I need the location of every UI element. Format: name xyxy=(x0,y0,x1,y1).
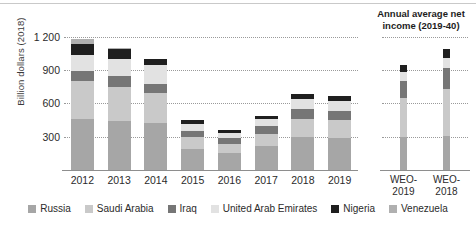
bar-segment-nigeria[interactable] xyxy=(400,65,407,72)
bar-segment-united-arab-emirates[interactable] xyxy=(108,59,131,76)
bar-segment-united-arab-emirates[interactable] xyxy=(400,72,407,81)
bar-column[interactable] xyxy=(442,30,452,170)
y-axis-tick: 1 200 xyxy=(20,31,60,42)
y-axis-tick-labels: 1 200900600300 xyxy=(20,0,60,231)
bar-segment-iraq[interactable] xyxy=(144,84,167,93)
bar-segment-iraq[interactable] xyxy=(255,126,278,134)
bar-segment-saudi-arabia[interactable] xyxy=(181,137,204,149)
legend-item[interactable]: United Arab Emirates xyxy=(211,203,318,214)
legend-label: Iraq xyxy=(180,203,197,214)
right-panel-title: Annual average net income (2019-40) xyxy=(368,8,474,32)
bar-segment-saudi-arabia[interactable] xyxy=(71,81,94,119)
stacked-bar[interactable] xyxy=(443,49,450,170)
y-axis-tick: 600 xyxy=(20,98,60,109)
bar-segment-russia[interactable] xyxy=(108,121,131,170)
bar-segment-united-arab-emirates[interactable] xyxy=(144,65,167,84)
bar-segment-nigeria[interactable] xyxy=(108,49,131,58)
bar-segment-russia[interactable] xyxy=(291,137,314,170)
stacked-bar[interactable] xyxy=(218,130,241,170)
bar-segment-iraq[interactable] xyxy=(328,111,351,120)
bar-segment-saudi-arabia[interactable] xyxy=(291,119,314,137)
stacked-bar[interactable] xyxy=(181,120,204,170)
bar-segment-saudi-arabia[interactable] xyxy=(144,93,167,122)
bar-segment-nigeria[interactable] xyxy=(71,44,94,55)
bar-segment-iraq[interactable] xyxy=(181,131,204,138)
bar-segment-saudi-arabia[interactable] xyxy=(255,134,278,146)
right-plot-area xyxy=(382,30,468,170)
bar-segment-saudi-arabia[interactable] xyxy=(218,144,241,152)
right-x-axis-label-line1: WEO- xyxy=(428,174,466,186)
main-plot-area xyxy=(64,30,358,170)
bar-segment-saudi-arabia[interactable] xyxy=(328,120,351,138)
legend-label: Saudi Arabia xyxy=(97,203,154,214)
legend-swatch-icon xyxy=(28,205,36,213)
stacked-bar[interactable] xyxy=(400,65,407,170)
bar-segment-united-arab-emirates[interactable] xyxy=(181,124,204,131)
legend-swatch-icon xyxy=(389,205,397,213)
stacked-bar[interactable] xyxy=(291,94,314,170)
stacked-bar[interactable] xyxy=(71,39,94,170)
bar-column[interactable] xyxy=(213,30,246,170)
bar-segment-iraq[interactable] xyxy=(291,109,314,119)
bar-segment-saudi-arabia[interactable] xyxy=(400,98,407,136)
legend-swatch-icon xyxy=(211,205,219,213)
bar-segment-united-arab-emirates[interactable] xyxy=(71,55,94,71)
legend-label: Venezuela xyxy=(401,203,448,214)
stacked-bar[interactable] xyxy=(108,48,131,170)
legend-label: Nigeria xyxy=(343,203,375,214)
bar-column[interactable] xyxy=(399,30,409,170)
bar-segment-russia[interactable] xyxy=(181,149,204,170)
bar-segment-russia[interactable] xyxy=(400,137,407,170)
bar-column[interactable] xyxy=(103,30,136,170)
legend-item[interactable]: Nigeria xyxy=(331,203,375,214)
bar-segment-iraq[interactable] xyxy=(443,68,450,89)
bar-segment-russia[interactable] xyxy=(328,138,351,170)
right-x-axis-labels: WEO-2019WEO-2018 xyxy=(382,174,468,197)
legend-item[interactable]: Russia xyxy=(28,203,71,214)
bar-segment-iraq[interactable] xyxy=(71,71,94,81)
right-panel-title-line1: Annual average net xyxy=(368,8,474,20)
x-axis-label: 2014 xyxy=(139,174,172,186)
x-axis-label: 2015 xyxy=(176,174,209,186)
bar-segment-united-arab-emirates[interactable] xyxy=(328,101,351,110)
right-x-axis-label: WEO-2019 xyxy=(385,174,423,197)
legend-swatch-icon xyxy=(168,205,176,213)
bar-column[interactable] xyxy=(66,30,99,170)
legend-item[interactable]: Saudi Arabia xyxy=(85,203,154,214)
bar-column[interactable] xyxy=(176,30,209,170)
bar-column[interactable] xyxy=(286,30,319,170)
bar-segment-united-arab-emirates[interactable] xyxy=(255,119,278,126)
x-axis-label: 2016 xyxy=(213,174,246,186)
bar-segment-united-arab-emirates[interactable] xyxy=(443,58,450,68)
right-x-axis-label-line2: 2019 xyxy=(385,186,423,198)
x-axis-label: 2019 xyxy=(323,174,356,186)
stacked-bar[interactable] xyxy=(328,96,351,170)
bar-segment-russia[interactable] xyxy=(144,123,167,170)
legend-swatch-icon xyxy=(85,205,93,213)
x-axis-label: 2012 xyxy=(66,174,99,186)
bar-segment-russia[interactable] xyxy=(255,146,278,170)
bar-segment-saudi-arabia[interactable] xyxy=(443,89,450,136)
bar-segment-russia[interactable] xyxy=(443,136,450,170)
legend-swatch-icon xyxy=(331,205,339,213)
x-axis-label: 2017 xyxy=(250,174,283,186)
bar-column[interactable] xyxy=(323,30,356,170)
y-axis-tick: 900 xyxy=(20,65,60,76)
right-bar-group xyxy=(382,30,468,170)
right-x-axis-label-line1: WEO- xyxy=(385,174,423,186)
main-x-axis-line xyxy=(62,170,358,171)
bar-segment-iraq[interactable] xyxy=(400,81,407,99)
bar-segment-saudi-arabia[interactable] xyxy=(108,87,131,121)
bar-segment-iraq[interactable] xyxy=(108,76,131,87)
legend-item[interactable]: Venezuela xyxy=(389,203,448,214)
bar-segment-nigeria[interactable] xyxy=(443,49,450,58)
bar-column[interactable] xyxy=(139,30,172,170)
bar-column[interactable] xyxy=(250,30,283,170)
stacked-bar[interactable] xyxy=(144,59,167,170)
main-x-axis-labels: 20122013201420152016201720182019 xyxy=(64,174,358,186)
bar-segment-united-arab-emirates[interactable] xyxy=(291,99,314,108)
stacked-bar[interactable] xyxy=(255,116,278,170)
bar-segment-russia[interactable] xyxy=(218,153,241,170)
legend-item[interactable]: Iraq xyxy=(168,203,197,214)
bar-segment-russia[interactable] xyxy=(71,119,94,170)
